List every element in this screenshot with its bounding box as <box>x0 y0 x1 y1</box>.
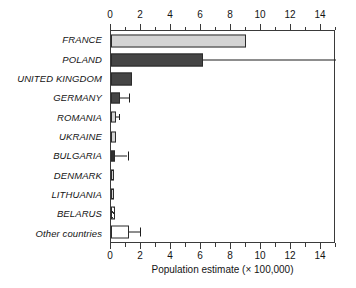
x-tick-label-top: 6 <box>197 9 203 20</box>
x-tick-label-top: 10 <box>254 9 265 20</box>
bar-row-united-kingdom <box>111 69 334 88</box>
error-cap-romania <box>119 114 120 120</box>
bar-belarus <box>111 207 115 220</box>
bar-ukraine <box>111 131 116 142</box>
axis-tick-minor <box>335 243 336 247</box>
y-label-lithuania: LITHUANIA <box>0 185 106 204</box>
axis-tick-minor <box>305 243 306 247</box>
bar-poland <box>111 53 203 66</box>
bar-row-poland <box>111 50 334 69</box>
x-axis-title: Population estimate (× 100,000) <box>110 264 335 275</box>
error-bar-bulgaria <box>115 155 128 156</box>
axis-tick-minor <box>335 27 336 31</box>
axis-tick-major <box>230 243 231 249</box>
bar-row-lithuania <box>111 185 334 204</box>
x-tick-label-top: 8 <box>227 9 233 20</box>
x-tick-label-bottom: 2 <box>137 250 143 261</box>
axis-tick-minor <box>185 243 186 247</box>
axis-tick-minor <box>125 243 126 247</box>
x-tick-label-top: 2 <box>137 9 143 20</box>
bar-france <box>111 34 246 47</box>
y-label-other-countries: Other countries <box>0 224 106 243</box>
error-bar-other-countries <box>129 232 140 233</box>
y-axis-category-labels: FRANCE POLAND UNITED KINGDOM GERMANY ROM… <box>0 30 106 243</box>
axis-tick-major <box>140 243 141 249</box>
bar-romania <box>111 112 116 123</box>
bar-denmark <box>111 169 114 180</box>
bar-other-countries <box>111 226 129 239</box>
y-label-bulgaria: BULGARIA <box>0 146 106 165</box>
error-cap-germany <box>129 94 130 103</box>
y-label-belarus: BELARUS <box>0 204 106 223</box>
bar-chart: 0 2 4 6 8 10 12 14 FRANCE POLAND UNITED … <box>0 0 356 288</box>
bar-bulgaria <box>111 150 115 161</box>
y-label-germany: GERMANY <box>0 88 106 107</box>
x-tick-label-bottom: 14 <box>314 250 325 261</box>
bar-united-kingdom <box>111 72 132 85</box>
error-cap-bulgaria <box>128 151 129 160</box>
y-label-romania: ROMANIA <box>0 107 106 126</box>
x-tick-label-bottom: 0 <box>107 250 113 261</box>
bar-row-france <box>111 31 334 50</box>
y-label-france: FRANCE <box>0 30 106 49</box>
x-tick-label-top: 12 <box>284 9 295 20</box>
axis-tick-major <box>320 243 321 249</box>
x-tick-label-bottom: 4 <box>167 250 173 261</box>
bar-row-other-countries <box>111 223 334 242</box>
bar-row-belarus <box>111 204 334 223</box>
axis-tick-major <box>110 243 111 249</box>
y-label-united-kingdom: UNITED KINGDOM <box>0 69 106 88</box>
bar-row-ukraine <box>111 127 334 146</box>
bar-lithuania <box>111 189 114 200</box>
y-label-poland: POLAND <box>0 49 106 68</box>
y-label-denmark: DENMARK <box>0 166 106 185</box>
y-label-ukraine: UKRAINE <box>0 127 106 146</box>
x-tick-label-bottom: 12 <box>284 250 295 261</box>
x-tick-label-top: 14 <box>314 9 325 20</box>
x-tick-label-bottom: 10 <box>254 250 265 261</box>
axis-tick-major <box>290 243 291 249</box>
axis-tick-major <box>200 243 201 249</box>
axis-tick-minor <box>215 243 216 247</box>
x-tick-label-bottom: 8 <box>227 250 233 261</box>
x-tick-label-top: 0 <box>107 9 113 20</box>
bar-row-bulgaria <box>111 146 334 165</box>
axis-tick-major <box>260 243 261 249</box>
axis-tick-major <box>170 243 171 249</box>
bar-row-denmark <box>111 165 334 184</box>
error-cap-other-countries <box>140 228 141 237</box>
error-bar-germany <box>120 98 129 99</box>
bar-row-germany <box>111 89 334 108</box>
bar-germany <box>111 93 120 104</box>
axis-tick-minor <box>245 243 246 247</box>
x-tick-label-top: 4 <box>167 9 173 20</box>
plot-area <box>110 30 335 243</box>
bar-rows <box>111 31 334 242</box>
axis-tick-minor <box>275 243 276 247</box>
bar-row-romania <box>111 108 334 127</box>
axis-tick-minor <box>155 243 156 247</box>
x-tick-label-bottom: 6 <box>197 250 203 261</box>
